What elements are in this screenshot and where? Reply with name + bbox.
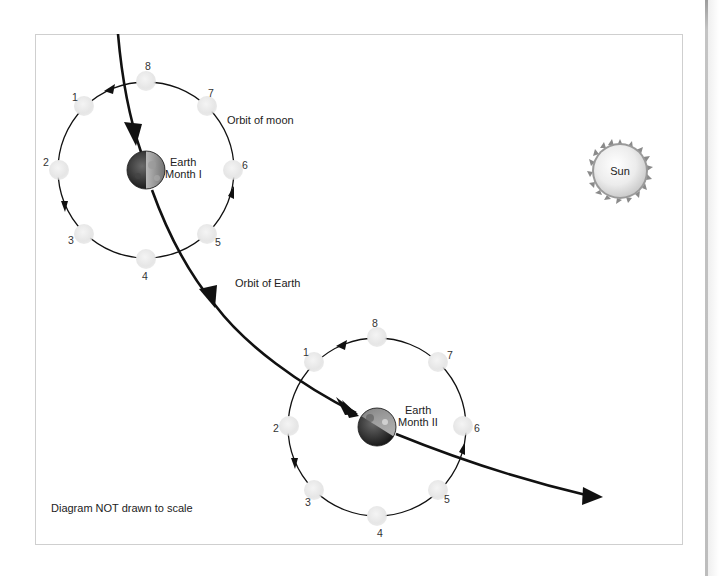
orbit-direction-arrow-icon: [228, 186, 234, 199]
moon-number-6: 6: [474, 422, 480, 434]
orbit-of-moon-label: Orbit of moon: [227, 114, 294, 126]
scale-disclaimer: Diagram NOT drawn to scale: [51, 502, 193, 514]
moon-position-5: [197, 224, 217, 244]
moon-number-1: 1: [72, 91, 78, 103]
moon-number-4: 4: [377, 527, 383, 539]
moon-position-7: [197, 96, 217, 116]
moon-position-4: [367, 506, 387, 526]
moon-number-2: 2: [273, 422, 279, 434]
earth-orbit-arrow-icon: [199, 285, 217, 308]
earth-orbit-arrow-icon: [582, 487, 603, 505]
moon-number-2: 2: [43, 156, 49, 168]
moon-number-8: 8: [145, 60, 151, 72]
orbit-direction-arrow-icon: [61, 201, 68, 212]
moon-position-6: [223, 160, 243, 180]
moon-number-3: 3: [68, 234, 74, 246]
orbit-direction-arrow-icon: [336, 340, 347, 350]
orbit-diagram: 8 1 2 3 4 5 6 7 Orbit of moon 8 1 2 3 4 …: [0, 0, 719, 576]
moon-number-5: 5: [215, 236, 221, 248]
moon-position-6: [453, 416, 473, 436]
moon-number-5: 5: [444, 493, 450, 505]
earth-month-2-label-line1: Earth: [405, 404, 431, 416]
moon-position-2: [49, 160, 69, 180]
moon-position-3: [74, 224, 94, 244]
earth-month-1-label-line1: Earth: [170, 156, 196, 168]
orbit-of-earth-label: Orbit of Earth: [235, 277, 300, 289]
earth-month-2-icon: [358, 408, 396, 446]
moon-position-2: [279, 416, 299, 436]
moon-position-4: [136, 249, 156, 269]
earth-month-1-icon: [127, 150, 166, 190]
moon-position-8: [367, 327, 387, 347]
moon-number-4: 4: [142, 270, 148, 282]
earth-month-1-label-line2: Month I: [165, 168, 202, 180]
moon-number-3: 3: [305, 496, 311, 508]
earth-month-2-label-line2: Month II: [398, 416, 438, 428]
moon-position-8: [136, 71, 156, 91]
moon-position-7: [428, 352, 448, 372]
moon-number-6: 6: [242, 159, 248, 171]
sun-label: Sun: [610, 165, 630, 177]
moon-number-1: 1: [303, 346, 309, 358]
moon-number-7: 7: [447, 349, 453, 361]
moon-number-8: 8: [372, 317, 378, 329]
earth-orbit-arrow-icon: [124, 122, 142, 146]
orbit-direction-arrow-icon: [459, 442, 465, 455]
moon-number-7: 7: [208, 87, 214, 99]
